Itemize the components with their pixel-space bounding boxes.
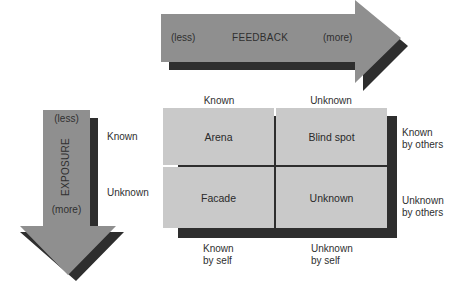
cell-unknown: Unknown — [276, 167, 387, 228]
exposure-less-label: (less) — [43, 113, 90, 125]
unknown-by-self-label: Unknown by self — [311, 243, 353, 267]
unknown-by-self-line1: Unknown — [311, 243, 353, 255]
known-by-self-label: Known by self — [203, 243, 234, 267]
column-header-unknown: Unknown — [275, 95, 387, 107]
known-by-others-label: Known by others — [402, 127, 443, 151]
known-by-others-line1: Known — [402, 127, 443, 139]
cell-blind-spot-label: Blind spot — [308, 131, 354, 143]
row-label-known: Known — [107, 131, 138, 143]
row-label-unknown: Unknown — [107, 187, 149, 199]
feedback-title: FEEDBACK — [232, 32, 288, 44]
cell-arena: Arena — [163, 108, 274, 165]
cell-unknown-label: Unknown — [310, 192, 354, 204]
unknown-by-others-line1: Unknown — [402, 195, 444, 207]
johari-grid: Arena Blind spot Facade Unknown — [163, 108, 387, 228]
cell-blind-spot: Blind spot — [276, 108, 387, 165]
unknown-by-others-line2: by others — [402, 207, 444, 219]
cell-arena-label: Arena — [204, 131, 232, 143]
exposure-title: EXPOSURE — [60, 137, 72, 197]
known-by-self-line1: Known — [203, 243, 234, 255]
known-by-self-line2: by self — [203, 255, 234, 267]
exposure-more-label: (more) — [43, 204, 90, 216]
unknown-by-others-label: Unknown by others — [402, 195, 444, 219]
cell-facade: Facade — [163, 167, 274, 228]
column-header-known: Known — [163, 95, 275, 107]
feedback-less-label: (less) — [171, 32, 195, 44]
unknown-by-self-line2: by self — [311, 255, 353, 267]
cell-facade-label: Facade — [201, 192, 236, 204]
feedback-more-label: (more) — [323, 32, 352, 44]
known-by-others-line2: by others — [402, 139, 443, 151]
